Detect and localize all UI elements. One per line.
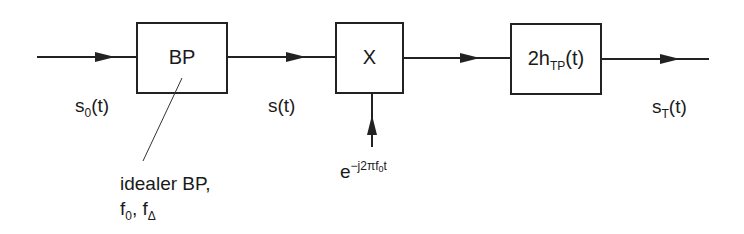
- lowpass-main: 2h: [528, 47, 550, 69]
- sT-tail: (t): [669, 96, 687, 117]
- exp-tail: t: [384, 159, 387, 173]
- lowpass-sub: TP: [550, 59, 565, 73]
- signal-s: s(t): [268, 96, 295, 115]
- exp-power: −j2πf: [351, 159, 379, 173]
- mixer-label: X: [336, 47, 403, 67]
- s0-main: s: [75, 95, 85, 116]
- signal-sT: sT(t): [652, 97, 687, 116]
- fdelta-sub: Δ: [148, 209, 156, 223]
- annotation-line2: f0, fΔ: [120, 199, 156, 218]
- s-main: s(t): [268, 95, 295, 116]
- s0-tail: (t): [91, 95, 109, 116]
- sT-sub: T: [662, 107, 669, 121]
- lowpass-label: 2hTP(t): [511, 48, 601, 68]
- bp-label: BP: [137, 47, 227, 67]
- bp-text: BP: [169, 46, 196, 68]
- mixer-text: X: [363, 46, 376, 68]
- exp-base: e: [340, 161, 351, 182]
- mixer-input-label: e−j2πf0t: [340, 162, 387, 181]
- f0-sub: 0: [125, 209, 132, 223]
- lowpass-tail: (t): [565, 47, 584, 69]
- sT-main: s: [652, 96, 662, 117]
- annotation-pointer: [143, 78, 182, 161]
- signal-s0: s0(t): [75, 96, 109, 115]
- block-diagram-canvas: [0, 0, 744, 234]
- annotation-sep: ,: [132, 198, 143, 219]
- annotation-line1: idealer BP,: [120, 174, 211, 193]
- annotation-text: idealer BP,: [120, 173, 211, 194]
